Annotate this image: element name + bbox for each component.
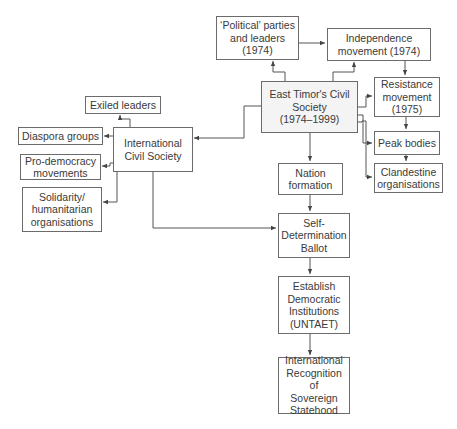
- edge-etcs-to-clandestine: [357, 121, 372, 177]
- node-peak-bodies: Peak bodies: [374, 131, 440, 155]
- node-international-recognition: International Recognition of Sovereign S…: [278, 357, 350, 414]
- civil-society-flow-diagram: ‘Political’ parties and leaders (1974) I…: [0, 0, 457, 429]
- node-self-determination-ballot: Self- Determination Ballot: [278, 213, 350, 258]
- edge-intl-to-ballot: [153, 171, 276, 228]
- node-independence-movement: Independence movement (1974): [327, 28, 431, 61]
- edge-intl-to-prodemocracy: [102, 163, 113, 166]
- edge-etcs-to-parties: [273, 61, 285, 81]
- node-exiled-leaders: Exiled leaders: [85, 96, 161, 114]
- edge-etcs-to-intl: [194, 106, 261, 138]
- edge-etcs-to-resistance: [357, 96, 372, 107]
- node-solidarity-organisations: Solidarity/ humanitarian organisations: [22, 187, 102, 232]
- node-pro-democracy-movements: Pro-democracy movements: [20, 154, 101, 180]
- edge-intl-to-exiled: [120, 115, 130, 127]
- edge-etcs-to-independence: [333, 62, 354, 81]
- edge-intl-to-solidarity: [103, 171, 117, 202]
- node-clandestine-organisations: Clandestine organisations: [374, 163, 443, 193]
- node-political-parties: ‘Political’ parties and leaders (1974): [216, 16, 299, 60]
- node-nation-formation: Nation formation: [278, 163, 343, 195]
- node-diaspora-groups: Diaspora groups: [18, 127, 103, 145]
- node-democratic-institutions: Establish Democratic Institutions (UNTAE…: [278, 276, 350, 334]
- node-east-timor-civil-society: East Timor's Civil Society (1974–1999): [261, 81, 358, 133]
- edge-etcs-to-peak: [357, 115, 372, 143]
- node-international-civil-society: International Civil Society: [113, 127, 193, 172]
- node-resistance-movement: Resistance movement (1975): [374, 77, 440, 117]
